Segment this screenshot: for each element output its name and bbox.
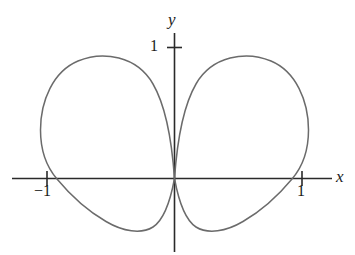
curve-right-lobe [175,56,309,231]
polar-curve-figure: y x 1 −1 1 [0,0,355,255]
x-tick-label-neg1: −1 [34,183,51,199]
x-tick-label-pos1: 1 [297,183,305,199]
plot-canvas [0,0,355,255]
curve-left-lobe [41,56,175,231]
x-axis-label: x [336,168,344,185]
y-tick-label-1: 1 [150,38,158,54]
y-axis-label: y [168,11,176,28]
